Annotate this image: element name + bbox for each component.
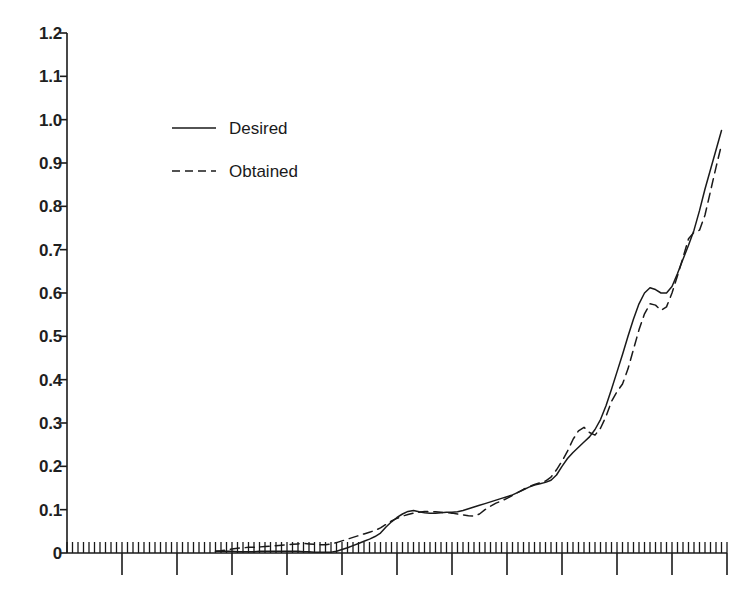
legend-label-obtained: Obtained [229, 163, 298, 180]
legend-label-desired: Desired [229, 120, 288, 137]
legend: DesiredObtained [0, 0, 746, 595]
chart-container: 00.10.20.30.40.50.60.70.80.91.01.11.2 De… [0, 0, 746, 595]
